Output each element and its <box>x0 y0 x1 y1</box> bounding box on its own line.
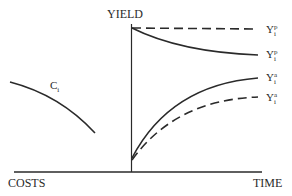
cost-curve-label: Ci <box>50 80 59 91</box>
yield-axis-label: YIELD <box>107 8 143 20</box>
costs-axis-label: COSTS <box>8 177 45 189</box>
yield-actual-dashed-label: Yia <box>266 92 277 103</box>
time-axis-label: TIME <box>253 177 282 189</box>
yield-potential-solid-line <box>132 28 258 55</box>
diagram-canvas <box>0 0 292 196</box>
yield-potential-solid-label: Yip <box>266 49 277 60</box>
yield-actual-solid-line <box>132 78 258 158</box>
yield-actual-solid-label: Yia <box>266 72 277 83</box>
yield-potential-dashed-line <box>132 28 258 29</box>
yield-potential-dashed-label: Yip <box>266 24 277 35</box>
